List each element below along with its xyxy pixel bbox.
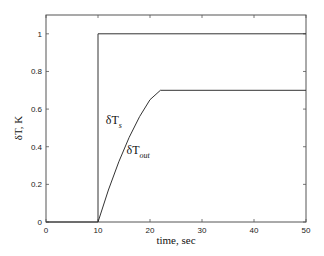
plot-area — [46, 15, 306, 222]
y-tick-label: 0.4 — [31, 143, 43, 152]
x-axis-label: time, sec — [156, 234, 195, 246]
y-axis-label: δT, K — [12, 116, 24, 141]
line-chart: 0102030405000.20.40.60.81 δTsδTout time,… — [0, 0, 324, 256]
axis-ticks: 0102030405000.20.40.60.81 — [31, 15, 311, 235]
axes-frame — [46, 15, 306, 222]
x-tick-label: 10 — [94, 226, 103, 235]
data-series — [46, 34, 306, 222]
y-tick-label: 0 — [38, 218, 43, 227]
y-tick-label: 0.8 — [31, 67, 43, 76]
x-tick-label: 40 — [250, 226, 259, 235]
x-tick-label: 0 — [44, 226, 49, 235]
series-dTs-line — [46, 34, 306, 222]
label-dTout: δTout — [127, 143, 151, 160]
x-tick-label: 20 — [146, 226, 155, 235]
y-tick-label: 0.6 — [31, 105, 43, 114]
x-tick-label: 50 — [302, 226, 311, 235]
y-tick-label: 0.2 — [31, 180, 43, 189]
series-labels: δTsδTout — [106, 113, 151, 160]
x-tick-label: 30 — [198, 226, 207, 235]
label-dTs: δTs — [106, 113, 122, 130]
y-tick-label: 1 — [38, 30, 43, 39]
